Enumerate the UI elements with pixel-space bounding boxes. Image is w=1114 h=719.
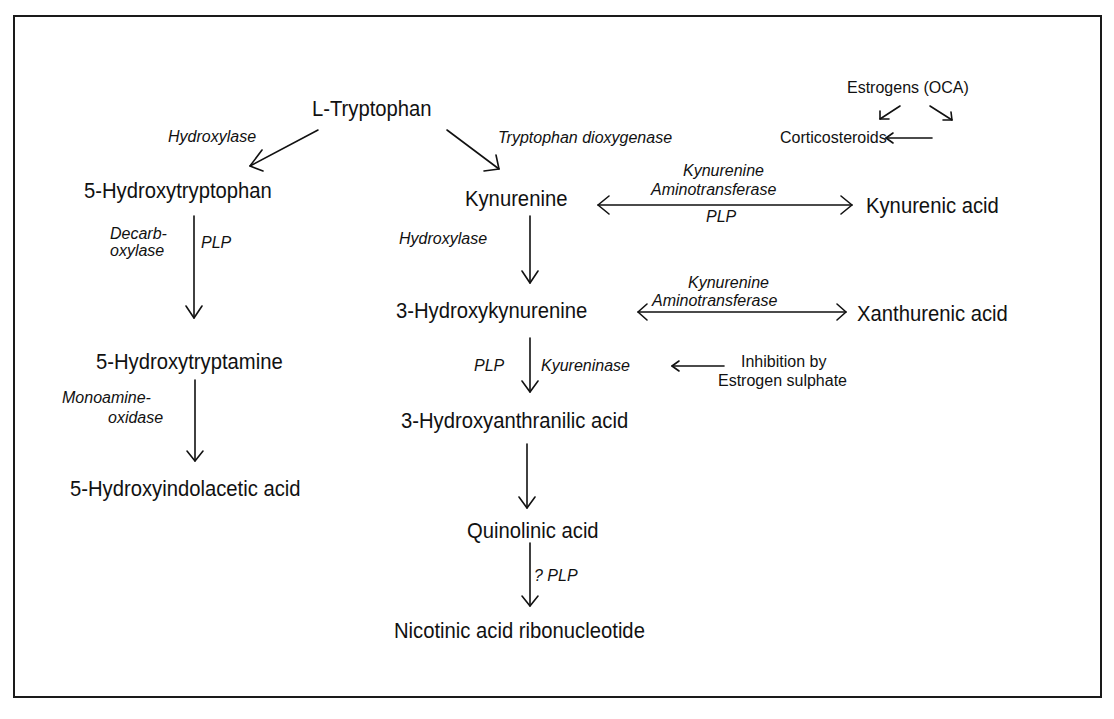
enzyme-hydroxylase-center: Hydroxylase bbox=[399, 231, 487, 247]
regulator-inhibition-line2: Estrogen sulphate bbox=[718, 373, 847, 389]
regulator-inhibition-line1: Inhibition by bbox=[741, 354, 826, 370]
arrow-5htp-to-5ht bbox=[186, 216, 202, 318]
node-kynurenine: Kynurenine bbox=[465, 188, 567, 210]
cofactor-kat1-plp: PLP bbox=[706, 209, 736, 225]
enzyme-monoamine-oxidase-line1: Monoamine- bbox=[62, 390, 151, 406]
arrow-trp-to-5htp bbox=[250, 130, 318, 171]
node-l-tryptophan: L-Tryptophan bbox=[312, 98, 432, 120]
regulator-corticosteroids: Corticosteroids bbox=[780, 130, 887, 146]
cofactor-plp-question: ? PLP bbox=[534, 568, 578, 584]
enzyme-kyureninase: Kyureninase bbox=[541, 358, 630, 374]
arrow-3hk-to-3haa bbox=[522, 338, 538, 392]
cofactor-plp-center: PLP bbox=[474, 358, 504, 374]
arrow-3haa-to-quinolinic bbox=[519, 444, 535, 508]
node-3-hydroxykynurenine: 3-Hydroxykynurenine bbox=[396, 300, 587, 322]
cofactor-plp-left: PLP bbox=[201, 235, 231, 251]
enzyme-decarboxylase-line1: Decarb- bbox=[110, 226, 167, 242]
enzyme-tryptophan-dioxygenase: Tryptophan dioxygenase bbox=[498, 130, 672, 146]
enzyme-kat1-line1: Kynurenine bbox=[683, 163, 764, 179]
enzyme-monoamine-oxidase-line2: oxidase bbox=[108, 410, 163, 426]
node-5-hydroxytryptophan: 5-Hydroxytryptophan bbox=[84, 180, 272, 202]
arrow-corticosteroids-to-dioxygenase bbox=[886, 133, 932, 143]
enzyme-decarboxylase-line2: oxylase bbox=[110, 243, 164, 259]
enzyme-kat1-line2: Aminotransferase bbox=[651, 182, 776, 198]
node-3-hydroxyanthranilic-acid: 3-Hydroxyanthranilic acid bbox=[401, 410, 628, 432]
node-5-hydroxytryptamine: 5-Hydroxytryptamine bbox=[96, 351, 283, 373]
arrow-inhibition-to-kyureninase bbox=[672, 361, 724, 371]
node-xanthurenic-acid: Xanthurenic acid bbox=[857, 303, 1008, 325]
arrow-kynurenine-to-3hk bbox=[522, 216, 538, 283]
arrow-estrogens-to-dioxygenase bbox=[880, 106, 900, 119]
node-kynurenic-acid: Kynurenic acid bbox=[866, 195, 999, 217]
enzyme-hydroxylase-left: Hydroxylase bbox=[168, 129, 256, 145]
arrow-trp-to-kynurenine bbox=[447, 130, 499, 171]
node-nicotinic-acid-ribonucleotide: Nicotinic acid ribonucleotide bbox=[394, 620, 645, 642]
regulator-estrogens: Estrogens (OCA) bbox=[847, 80, 969, 96]
arrow-5ht-to-5hiaa bbox=[187, 380, 203, 461]
arrow-estrogens-to-corticosteroids bbox=[930, 106, 952, 120]
enzyme-kat2-line2: Aminotransferase bbox=[652, 293, 777, 309]
enzyme-kat2-line1: Kynurenine bbox=[688, 275, 769, 291]
node-quinolinic-acid: Quinolinic acid bbox=[467, 520, 599, 542]
node-5-hydroxyindolacetic-acid: 5-Hydroxyindolacetic acid bbox=[70, 478, 301, 500]
